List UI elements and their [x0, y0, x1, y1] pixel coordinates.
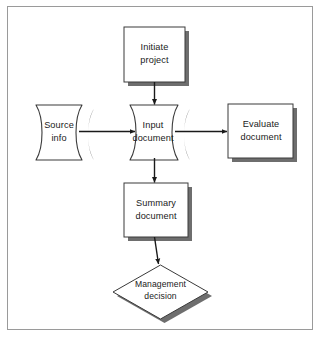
management-decision-shape[interactable]	[113, 265, 208, 319]
initiate-project-shape[interactable]	[124, 27, 185, 82]
flowchart-canvas: Initiate project Source info Input docum…	[0, 0, 325, 344]
input-document-shadow	[184, 109, 190, 160]
arrow-summary-to-decision	[155, 237, 159, 264]
source-info-shadow	[88, 109, 94, 160]
input-document-shape[interactable]	[130, 105, 178, 160]
evaluate-document-shape[interactable]	[228, 104, 293, 158]
summary-document-shape[interactable]	[124, 183, 188, 237]
shape-shadows	[88, 31, 297, 323]
source-info-shape[interactable]	[36, 105, 82, 160]
flowchart-svg	[0, 0, 325, 344]
